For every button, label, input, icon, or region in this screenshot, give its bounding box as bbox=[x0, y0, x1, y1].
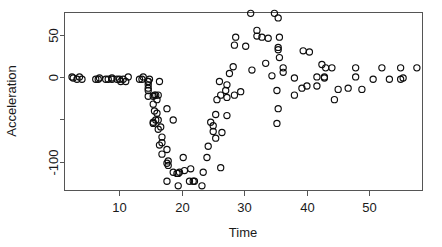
data-point bbox=[370, 76, 376, 82]
data-point bbox=[265, 35, 271, 41]
data-point bbox=[269, 73, 275, 79]
data-point bbox=[263, 60, 269, 66]
data-point bbox=[274, 120, 280, 126]
data-point bbox=[345, 85, 351, 91]
data-point bbox=[218, 165, 224, 171]
data-point bbox=[329, 65, 335, 71]
y-tick-label: 50 bbox=[46, 28, 61, 42]
y-axis-title: Acceleration bbox=[4, 65, 19, 137]
data-point bbox=[233, 34, 239, 40]
data-point bbox=[314, 74, 320, 80]
x-tick-label: 50 bbox=[362, 200, 376, 215]
data-point bbox=[398, 65, 404, 71]
data-point bbox=[230, 64, 236, 70]
data-point bbox=[224, 94, 230, 100]
data-point bbox=[180, 154, 186, 160]
data-point bbox=[213, 135, 219, 141]
data-point bbox=[306, 49, 312, 55]
y-axis-tick-labels: 500-100 bbox=[46, 28, 61, 175]
data-point bbox=[414, 65, 420, 71]
x-tick-label: 10 bbox=[112, 200, 126, 215]
data-point bbox=[314, 83, 320, 89]
data-point bbox=[238, 89, 244, 95]
data-point bbox=[164, 106, 170, 112]
data-point bbox=[165, 162, 171, 168]
scatter-plot-figure: 1020304050 500-100 Time Acceleration bbox=[0, 0, 442, 247]
plot-canvas: 1020304050 500-100 Time Acceleration bbox=[0, 0, 442, 247]
data-point bbox=[205, 143, 211, 149]
data-point-layer bbox=[69, 10, 420, 189]
data-point bbox=[218, 92, 224, 98]
data-point bbox=[248, 10, 254, 16]
data-point bbox=[300, 48, 306, 54]
data-point bbox=[204, 154, 210, 160]
y-tick-label: -100 bbox=[46, 149, 61, 175]
data-point bbox=[226, 70, 232, 76]
y-tick-label: 0 bbox=[46, 74, 61, 81]
data-point bbox=[275, 15, 281, 21]
data-point bbox=[231, 92, 237, 98]
data-point bbox=[379, 65, 385, 71]
x-tick-label: 20 bbox=[175, 200, 189, 215]
data-point bbox=[216, 78, 222, 84]
data-point bbox=[331, 97, 337, 103]
data-point bbox=[249, 67, 255, 73]
data-point bbox=[156, 78, 162, 84]
data-point bbox=[224, 82, 230, 88]
data-point bbox=[353, 65, 359, 71]
x-axis-tick-labels: 1020304050 bbox=[112, 200, 376, 215]
data-point bbox=[224, 112, 230, 118]
data-point bbox=[200, 169, 206, 175]
data-point bbox=[276, 54, 282, 60]
data-point bbox=[291, 92, 297, 98]
data-point bbox=[175, 183, 181, 189]
data-point bbox=[231, 42, 237, 48]
data-point bbox=[276, 34, 282, 40]
x-axis-ticks bbox=[120, 191, 370, 196]
x-axis-title: Time bbox=[229, 225, 257, 240]
data-point bbox=[353, 74, 359, 80]
data-point bbox=[164, 178, 170, 184]
data-point bbox=[359, 86, 365, 92]
y-axis-ticks bbox=[60, 36, 65, 163]
data-point bbox=[335, 86, 341, 92]
data-point bbox=[164, 146, 170, 152]
x-tick-label: 40 bbox=[300, 200, 314, 215]
data-point bbox=[291, 75, 297, 81]
data-point bbox=[280, 69, 286, 75]
data-point bbox=[213, 111, 219, 117]
data-point bbox=[219, 129, 225, 135]
data-point bbox=[323, 65, 329, 71]
data-point bbox=[386, 76, 392, 82]
data-point bbox=[319, 61, 325, 67]
data-point bbox=[188, 166, 194, 172]
data-point bbox=[243, 43, 249, 49]
plot-frame bbox=[65, 13, 423, 191]
x-tick-label: 30 bbox=[237, 200, 251, 215]
data-point bbox=[170, 117, 176, 123]
data-point bbox=[274, 87, 280, 93]
data-point bbox=[275, 106, 281, 112]
data-point bbox=[159, 151, 165, 157]
data-point bbox=[199, 183, 205, 189]
